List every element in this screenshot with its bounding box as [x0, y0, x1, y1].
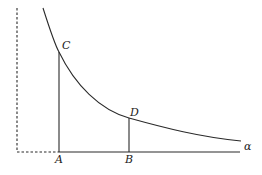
label-a: A: [54, 153, 63, 166]
diagram-canvas: C D A B α: [0, 0, 262, 175]
label-c: C: [62, 39, 71, 52]
label-b: B: [124, 153, 133, 166]
label-d: D: [129, 106, 139, 119]
decreasing-curve: [43, 8, 241, 141]
label-alpha: α: [244, 140, 252, 153]
